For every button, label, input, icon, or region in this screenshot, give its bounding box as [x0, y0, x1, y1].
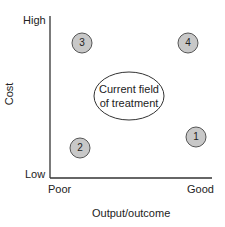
- point-2-label: 2: [70, 142, 90, 154]
- current-field-line1: Current field: [89, 83, 169, 96]
- x-poor-label: Poor: [48, 183, 71, 195]
- current-field-ellipse: [94, 72, 164, 120]
- x-good-label: Good: [187, 183, 214, 195]
- y-high-label: High: [23, 14, 46, 26]
- current-field-line2: of treatment: [89, 97, 169, 110]
- point-1-label: 1: [186, 131, 206, 143]
- y-low-label: Low: [25, 168, 45, 180]
- x-axis-title: Output/outcome: [92, 207, 170, 219]
- y-axis-title: Cost: [3, 83, 15, 106]
- point-4-label: 4: [178, 37, 198, 49]
- point-3-label: 3: [72, 37, 92, 49]
